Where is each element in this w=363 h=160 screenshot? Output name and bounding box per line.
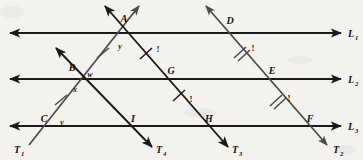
angle-label-w: w [87, 70, 93, 79]
line-label-T3-text: T [232, 144, 239, 155]
geometry-figure: A B C D E F G H I w x y v ! ! ! ! L 1 L … [0, 0, 363, 160]
line-label-L1-sub: 1 [355, 34, 358, 41]
tick-label-ef: ! [288, 93, 291, 103]
line-label-T4: T 4 [156, 144, 167, 157]
transversal-T2 [206, 6, 327, 145]
angle-label-x: x [72, 85, 77, 94]
line-label-T3: T 3 [232, 144, 243, 157]
angle-label-y: y [117, 42, 122, 51]
tick-BA [97, 48, 109, 58]
line-label-T3-sub: 3 [238, 150, 243, 157]
line-label-L2-text: L [347, 74, 354, 85]
line-label-T2-text: T [333, 144, 340, 155]
line-label-L2: L 2 [347, 74, 359, 87]
line-label-T1-sub: 1 [21, 150, 24, 157]
point-label-D: D [225, 15, 233, 26]
line-label-T4-text: T [156, 144, 163, 155]
point-label-C: C [41, 113, 48, 124]
line-label-T1-text: T [14, 144, 21, 155]
line-label-T1: T 1 [14, 144, 24, 157]
line-label-L1-text: L [347, 28, 354, 39]
point-label-B: B [68, 62, 76, 73]
point-label-E: E [268, 65, 276, 76]
line-label-L3-text: L [347, 121, 354, 132]
point-label-A: A [120, 13, 128, 24]
point-label-G: G [167, 65, 175, 76]
line-label-L2-sub: 2 [354, 80, 359, 87]
tick-EF [270, 95, 286, 109]
tick-label-ay: ! [157, 44, 160, 54]
point-label-F: F [306, 113, 314, 124]
point-label-H: H [204, 113, 214, 124]
line-label-L1: L 1 [347, 28, 358, 41]
transversal-T2-group [206, 6, 327, 145]
paper-texture [0, 6, 356, 155]
line-label-T4-sub: 4 [162, 150, 167, 157]
tick-label-de: ! [252, 43, 255, 53]
tick-label-gh: ! [190, 94, 193, 104]
geometry-diagram-svg: A B C D E F G H I w x y v ! ! ! ! L 1 L … [0, 0, 363, 160]
point-label-I: I [130, 113, 136, 124]
parallel-lines-group [10, 33, 341, 126]
line-label-L3: L 3 [347, 121, 359, 134]
line-label-L3-sub: 3 [354, 127, 359, 134]
